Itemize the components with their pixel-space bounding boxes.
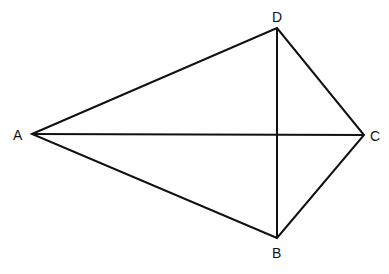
vertex-label-B: B <box>272 245 281 261</box>
vertex-label-D: D <box>272 9 282 25</box>
diagonal-AC <box>32 134 364 135</box>
quadrilateral-ADCB <box>32 28 364 238</box>
vertex-label-C: C <box>370 128 380 144</box>
kite-diagram: A D C B <box>0 0 389 274</box>
vertex-label-A: A <box>13 127 23 143</box>
